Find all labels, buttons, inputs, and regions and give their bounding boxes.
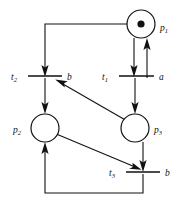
arc-p1-to-t1 xyxy=(130,38,137,77)
arc-line xyxy=(58,135,135,167)
transition-t1-label: t1 xyxy=(102,72,108,83)
transition-t1[interactable]: t1 a xyxy=(102,72,164,83)
arc-p3-to-t2 xyxy=(55,80,124,120)
transition-t1-event-label: a xyxy=(159,72,164,82)
transition-t2-event-label: b xyxy=(67,72,72,82)
arc-p1-to-t2 xyxy=(41,24,127,77)
arc-t3-to-p2 xyxy=(41,142,143,193)
transition-t3-event-label: b xyxy=(165,168,170,178)
place-p1[interactable]: p1 xyxy=(127,10,168,38)
place-p2[interactable]: p2 xyxy=(12,114,59,142)
token-dot-icon xyxy=(137,20,144,27)
transition-t3-label: t3 xyxy=(109,168,116,179)
arc-t2-to-p2 xyxy=(41,78,48,114)
place-circle[interactable] xyxy=(121,114,149,142)
arc-layer xyxy=(41,24,150,193)
petri-net-diagram: p1 p2 p3 t1 a t2 b xyxy=(0,0,182,204)
place-circle[interactable] xyxy=(31,114,59,142)
arrowhead-diag-icon xyxy=(129,163,141,170)
place-p3-label: p3 xyxy=(153,125,163,136)
transition-t3[interactable]: t3 b xyxy=(109,168,170,179)
arc-t1-to-p1 xyxy=(143,38,150,78)
place-p3[interactable]: p3 xyxy=(121,114,163,142)
petri-net-canvas: p1 p2 p3 t1 a t2 b xyxy=(0,0,182,204)
place-p1-label: p1 xyxy=(159,23,168,34)
transition-t2-label: t2 xyxy=(11,72,18,83)
arc-line xyxy=(62,84,125,120)
arc-p3-to-t3 xyxy=(139,142,146,172)
place-p2-label: p2 xyxy=(12,125,22,136)
arc-t1-to-p3 xyxy=(131,78,138,114)
arc-line xyxy=(45,24,127,70)
